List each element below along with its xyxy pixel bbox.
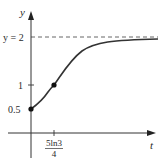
x-tick-label-denominator: 4 bbox=[52, 149, 57, 158]
x-axis-label: t bbox=[150, 139, 154, 151]
logistic-chart: y y = 2 1 0.5 t 5ln3 4 bbox=[0, 0, 158, 158]
asymptote-label: y = 2 bbox=[3, 32, 24, 43]
point-t0 bbox=[28, 106, 33, 111]
y-axis-label: y bbox=[19, 6, 25, 18]
x-axis-arrow-icon bbox=[147, 130, 156, 136]
point-inflection bbox=[51, 82, 56, 87]
x-tick-label-numerator: 5ln3 bbox=[46, 138, 63, 148]
y-axis-arrow-icon bbox=[28, 11, 34, 20]
y-tick-label-1: 1 bbox=[18, 80, 23, 91]
y-tick-label-0.5: 0.5 bbox=[8, 104, 21, 115]
logistic-curve bbox=[31, 39, 158, 109]
